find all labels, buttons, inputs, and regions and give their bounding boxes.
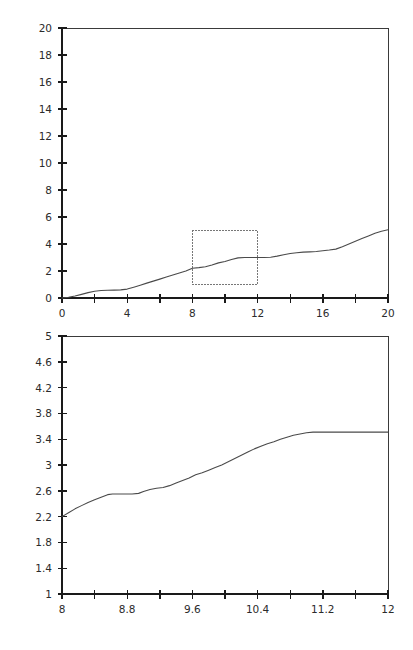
overview-chart-svg: 02468101214161820048121620 <box>0 0 413 330</box>
plot-frame <box>62 28 388 298</box>
y-axis-tick-label: 12 <box>39 130 52 142</box>
overview-chart-panel: 02468101214161820048121620 <box>0 0 413 330</box>
x-axis-tick-label: 12 <box>251 307 264 319</box>
y-axis-tick-label: 3 <box>45 459 52 471</box>
x-axis-tick-label: 20 <box>381 307 394 319</box>
y-axis-tick-label: 3.4 <box>35 433 52 445</box>
x-axis-tick-label: 0 <box>59 307 66 319</box>
y-axis-tick-label: 2.6 <box>35 485 52 497</box>
y-axis-tick-label: 1.8 <box>35 536 52 548</box>
y-axis-tick-label: 3.8 <box>35 407 52 419</box>
data-series-line <box>62 230 388 298</box>
y-axis-tick-label: 0 <box>45 292 52 304</box>
y-axis-tick-label: 10 <box>39 157 52 169</box>
zoomed-detail-chart-svg: 11.41.82.22.633.43.84.24.6588.89.610.411… <box>0 330 413 650</box>
two-panel-line-chart-figure: 02468101214161820048121620 11.41.82.22.6… <box>0 0 413 650</box>
x-axis-tick-label: 9.6 <box>184 603 201 615</box>
y-axis-tick-label: 4.2 <box>35 382 52 394</box>
y-axis-tick-label: 4 <box>45 238 52 250</box>
x-axis-tick-label: 12 <box>381 603 394 615</box>
y-axis-tick-label: 18 <box>39 49 52 61</box>
x-axis-tick-label: 8 <box>59 603 66 615</box>
y-axis-tick-label: 6 <box>45 211 52 223</box>
y-axis-tick-label: 2 <box>45 265 52 277</box>
y-axis-tick-label: 1 <box>45 588 52 600</box>
y-axis-tick-label: 8 <box>45 184 52 196</box>
y-axis-tick-label: 16 <box>39 76 53 88</box>
y-axis-tick-label: 5 <box>45 330 52 342</box>
x-axis-tick-label: 4 <box>124 307 131 319</box>
y-axis-tick-label: 1.4 <box>35 562 52 574</box>
plot-frame <box>62 336 388 594</box>
x-axis-tick-label: 11.2 <box>311 603 334 615</box>
x-axis-tick-label: 16 <box>316 307 330 319</box>
data-series-line <box>62 432 388 516</box>
x-axis-tick-label: 8 <box>189 307 196 319</box>
x-axis-tick-label: 10.4 <box>246 603 270 615</box>
zoomed-detail-chart-panel: 11.41.82.22.633.43.84.24.6588.89.610.411… <box>0 330 413 650</box>
x-axis-tick-label: 8.8 <box>119 603 136 615</box>
y-axis-tick-label: 4.6 <box>35 356 52 368</box>
y-axis-tick-label: 20 <box>39 22 52 34</box>
y-axis-tick-label: 2.2 <box>35 511 52 523</box>
y-axis-tick-label: 14 <box>39 103 53 115</box>
